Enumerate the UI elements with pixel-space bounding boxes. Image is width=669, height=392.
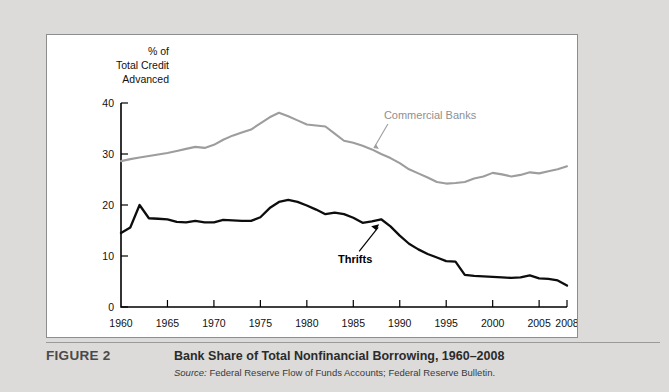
chart-panel: % ofTotal CreditAdvanced0102030401960196… — [46, 34, 578, 338]
x-tick-label: 2008 — [555, 317, 577, 329]
y-tick-label: 0 — [108, 301, 114, 313]
y-tick-label: 30 — [102, 148, 114, 160]
x-tick-label: 1990 — [388, 317, 412, 329]
x-tick-label: 1965 — [156, 317, 180, 329]
y-axis-title-line: % of — [148, 45, 169, 57]
line-chart: % ofTotal CreditAdvanced0102030401960196… — [47, 35, 577, 337]
figure-number: FIGURE 2 — [46, 348, 174, 363]
figure-root: % ofTotal CreditAdvanced0102030401960196… — [0, 0, 669, 392]
y-tick-label: 40 — [102, 97, 114, 109]
series-line-thrifts — [121, 200, 567, 286]
x-tick-label: 1995 — [435, 317, 459, 329]
x-tick-label: 1975 — [249, 317, 273, 329]
annotation-thrifts: Thrifts — [338, 253, 372, 265]
caption-divider — [46, 342, 660, 343]
y-axis-title-line: Advanced — [122, 73, 169, 85]
source-label: Source: — [174, 367, 207, 378]
x-tick-label: 2005 — [527, 317, 551, 329]
x-tick-label: 1960 — [109, 317, 133, 329]
x-tick-label: 1980 — [295, 317, 319, 329]
y-tick-label: 20 — [102, 199, 114, 211]
y-axis-title-line: Total Credit — [116, 59, 169, 71]
figure-caption: FIGURE 2 Bank Share of Total Nonfinancia… — [46, 348, 660, 378]
x-tick-label: 2000 — [481, 317, 505, 329]
annotation-commercial-banks: Commercial Banks — [384, 109, 477, 121]
figure-title: Bank Share of Total Nonfinancial Borrowi… — [174, 349, 504, 363]
x-tick-label: 1985 — [342, 317, 366, 329]
source-text: Federal Reserve Flow of Funds Accounts; … — [207, 367, 495, 378]
figure-frame: % ofTotal CreditAdvanced0102030401960196… — [8, 8, 661, 384]
series-line-commercial-banks — [121, 113, 567, 184]
y-tick-label: 10 — [102, 250, 114, 262]
annotation-leader-thrifts — [359, 227, 378, 251]
figure-source: Source: Federal Reserve Flow of Funds Ac… — [174, 367, 660, 378]
x-tick-label: 1970 — [202, 317, 226, 329]
